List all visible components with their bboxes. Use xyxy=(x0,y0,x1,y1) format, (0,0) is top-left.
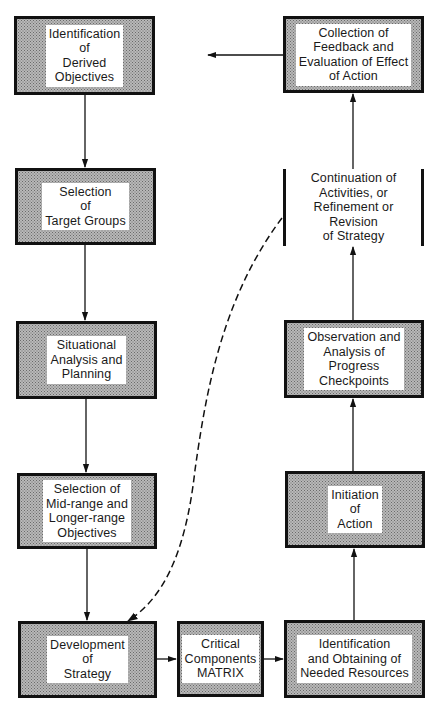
node-continuation-or-revision: Continuation of Activities, or Refinemen… xyxy=(283,169,424,246)
node-initiation-of-action: Initiation of Action xyxy=(285,471,425,548)
node-label: Critical Components MATRIX xyxy=(182,635,260,683)
node-situational-analysis-and-planning: Situational Analysis and Planning xyxy=(16,321,157,399)
node-label: Observation and Analysis of Progress Che… xyxy=(304,328,403,390)
node-label: Selection of Mid-range and Longer-range … xyxy=(43,480,131,542)
node-selection-of-target-groups: Selection of Target Groups xyxy=(15,168,156,245)
node-identification-of-derived-objectives: Identification of Derived Objectives xyxy=(14,16,155,95)
node-label: Identification and Obtaining of Needed R… xyxy=(297,635,412,683)
edge-n10-n5-dashed xyxy=(128,218,282,621)
node-label: Collection of Feedback and Evaluation of… xyxy=(296,24,411,86)
node-development-of-strategy: Development of Strategy xyxy=(18,621,157,698)
node-label: Development of Strategy xyxy=(47,636,128,684)
node-label: Initiation of Action xyxy=(328,486,382,534)
node-selection-of-objectives: Selection of Mid-range and Longer-range … xyxy=(17,473,157,549)
node-critical-components-matrix: Critical Components MATRIX xyxy=(177,621,264,697)
node-collection-of-feedback: Collection of Feedback and Evaluation of… xyxy=(283,16,424,93)
node-label: Identification of Derived Objectives xyxy=(46,25,124,87)
node-label: Selection of Target Groups xyxy=(42,183,129,231)
node-identification-and-obtaining-resources: Identification and Obtaining of Needed R… xyxy=(284,620,425,698)
node-observation-and-analysis: Observation and Analysis of Progress Che… xyxy=(284,320,424,398)
node-label: Continuation of Activities, or Refinemen… xyxy=(286,169,421,246)
node-label: Situational Analysis and Planning xyxy=(47,336,125,384)
flowchart-canvas: Identification of Derived Objectives Sel… xyxy=(0,0,439,712)
